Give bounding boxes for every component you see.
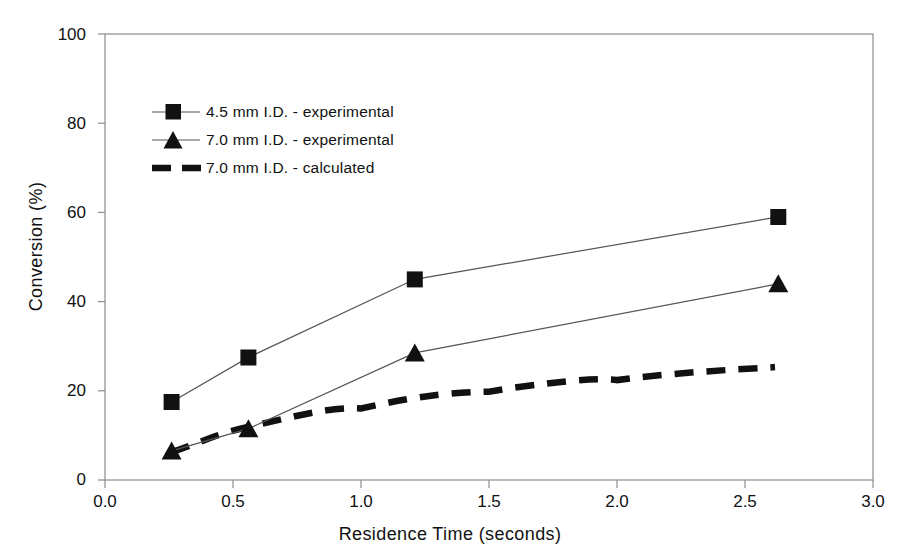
chart-figure: Conversion (%) Residence Time (seconds) … bbox=[0, 0, 900, 557]
x-tick-label-2-5: 2.5 bbox=[710, 492, 780, 512]
y-axis-ticks bbox=[98, 34, 105, 480]
y-tick-label-20: 20 bbox=[16, 381, 86, 401]
y-tick-label-60: 60 bbox=[16, 203, 86, 223]
x-axis-title: Residence Time (seconds) bbox=[0, 524, 900, 545]
x-axis-ticks bbox=[105, 480, 873, 488]
legend-entry-label-45mm-experimental: 4.5 mm I.D. - experimental bbox=[206, 103, 394, 121]
y-axis-title: Conversion (%) bbox=[26, 147, 47, 347]
x-tick-label-3-0: 3.0 bbox=[838, 492, 900, 512]
x-tick-label-1-5: 1.5 bbox=[454, 492, 524, 512]
plot-area bbox=[0, 0, 900, 557]
y-tick-label-80: 80 bbox=[16, 114, 86, 134]
y-tick-label-40: 40 bbox=[16, 292, 86, 312]
legend-entry-label-70mm-experimental: 7.0 mm I.D. - experimental bbox=[206, 131, 394, 149]
legend-entry-label-70mm-calculated: 7.0 mm I.D. - calculated bbox=[206, 159, 374, 177]
x-tick-label-0: 0.0 bbox=[70, 492, 140, 512]
x-tick-label-0-5: 0.5 bbox=[198, 492, 268, 512]
x-tick-label-2-0: 2.0 bbox=[582, 492, 652, 512]
plot-frame bbox=[105, 34, 873, 480]
y-tick-label-0: 0 bbox=[16, 470, 86, 490]
y-tick-label-100: 100 bbox=[16, 25, 86, 45]
x-tick-label-1-0: 1.0 bbox=[326, 492, 396, 512]
